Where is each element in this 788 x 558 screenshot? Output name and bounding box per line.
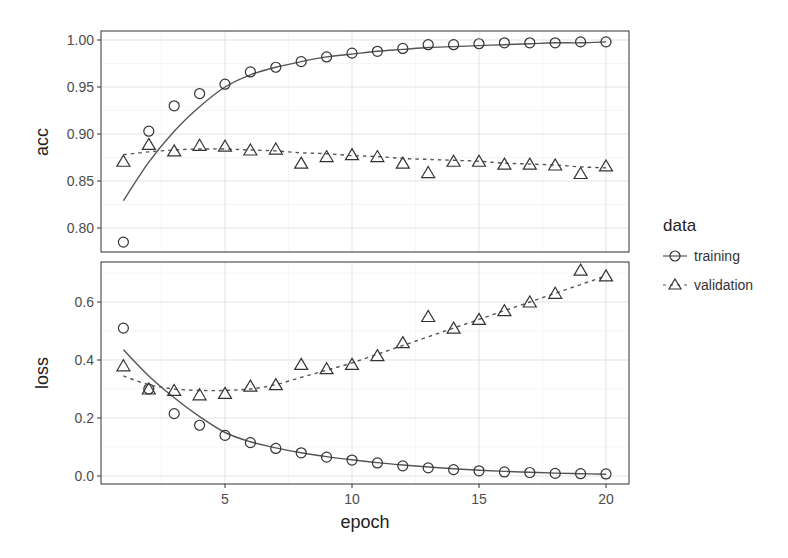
panel-acc: 0.800.850.900.951.00 <box>67 31 629 252</box>
chart-figure: 0.800.850.900.951.00 0.00.20.40.65101520… <box>0 0 788 558</box>
legend-label-training: training <box>694 248 740 264</box>
y-tick-label: 0.4 <box>75 352 95 368</box>
legend-item-training: training <box>663 248 740 264</box>
y-tick-label: 1.00 <box>67 32 94 48</box>
x-tick-label: 10 <box>344 491 360 507</box>
legend: data training validation <box>663 216 753 293</box>
legend-title: data <box>663 216 697 235</box>
panel-loss: 0.00.20.40.65101520 <box>75 262 629 507</box>
x-axis-title: epoch <box>340 512 389 532</box>
y-axis-title-acc: acc <box>32 128 52 156</box>
triangle-marker-icon <box>669 279 681 289</box>
x-tick-label: 20 <box>598 491 614 507</box>
y-tick-label: 0.90 <box>67 126 94 142</box>
y-axis-title-loss: loss <box>32 357 52 389</box>
y-tick-label: 0.6 <box>75 294 95 310</box>
y-tick-label: 0.2 <box>75 410 95 426</box>
x-tick-label: 15 <box>471 491 487 507</box>
y-tick-label: 0.85 <box>67 173 94 189</box>
y-tick-label: 0.95 <box>67 79 94 95</box>
plot-background <box>101 31 629 252</box>
legend-item-validation: validation <box>663 277 753 293</box>
legend-label-validation: validation <box>694 277 753 293</box>
y-tick-label: 0.0 <box>75 468 95 484</box>
x-tick-label: 5 <box>221 491 229 507</box>
y-tick-label: 0.80 <box>67 220 94 236</box>
